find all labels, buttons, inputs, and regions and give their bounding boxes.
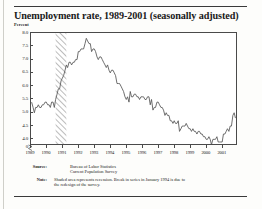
chart-note: Note: Shaded area represents recession. … xyxy=(14,177,246,188)
source-line-2: Current Population Survey xyxy=(70,169,246,174)
recession-band xyxy=(56,33,67,145)
plot-area xyxy=(30,32,237,145)
y-tick-label: 0 xyxy=(14,144,28,149)
y-tick-label: 7.5 xyxy=(14,43,28,48)
source-line-1: Bureau of Labor Statistics xyxy=(70,164,116,169)
x-tick-mark xyxy=(78,145,79,148)
top-divider-rule xyxy=(14,6,247,7)
y-tick-mark xyxy=(30,32,33,33)
y-tick-label: 6.5 xyxy=(14,69,28,74)
y-tick-mark xyxy=(30,138,33,139)
note-text: Shaded area represents recession. Break … xyxy=(50,177,246,188)
y-tick-label: 7.0 xyxy=(14,56,28,61)
y-tick-label: 5.0 xyxy=(14,109,28,114)
y-tick-mark xyxy=(30,112,33,113)
y-tick-mark xyxy=(30,45,33,46)
y-tick-mark xyxy=(30,59,33,60)
bottom-divider-rule xyxy=(14,196,247,197)
source-label: Source: xyxy=(14,164,50,169)
x-tick-mark xyxy=(46,145,47,148)
x-tick-mark xyxy=(222,145,223,148)
y-tick-mark xyxy=(30,72,33,73)
x-tick-mark xyxy=(174,145,175,148)
x-axis-tick-labels: 1989199019911992199319941995199619971998… xyxy=(30,150,237,159)
x-tick-mark xyxy=(126,145,127,148)
y-tick-mark xyxy=(30,125,33,126)
source-note: Source: Bureau of Labor Statistics Curre… xyxy=(14,164,246,175)
y-tick-label: 4.0 xyxy=(14,136,28,141)
recession-shading xyxy=(56,33,67,145)
unemployment-line-chart xyxy=(31,33,237,145)
y-tick-label: 4.5 xyxy=(14,123,28,128)
footnotes: Source: Bureau of Labor Statistics Curre… xyxy=(14,164,246,190)
x-tick-mark xyxy=(142,145,143,148)
x-tick-label: 2001 xyxy=(211,150,233,156)
x-tick-mark xyxy=(110,145,111,148)
page-title: Unemployment rate, 1989-2001 (seasonally… xyxy=(14,10,252,22)
y-tick-label: 8.0 xyxy=(14,30,28,35)
x-tick-mark xyxy=(206,145,207,148)
note-line-1: Shaded area represents recession. Break … xyxy=(54,177,185,182)
y-tick-label: 5.5 xyxy=(14,96,28,101)
y-tick-mark xyxy=(30,98,33,99)
source-text: Bureau of Labor Statistics Current Popul… xyxy=(50,164,246,175)
note-line-2: the redesign of the survey. xyxy=(54,182,246,187)
y-tick-mark xyxy=(30,85,33,86)
x-tick-mark xyxy=(158,145,159,148)
y-tick-label: 6.0 xyxy=(14,83,28,88)
note-label: Note: xyxy=(14,177,50,182)
x-tick-mark xyxy=(190,145,191,148)
page-left-edge xyxy=(3,0,4,209)
unemployment-rate-figure: Unemployment rate, 1989-2001 (seasonally… xyxy=(0,0,262,209)
x-tick-mark xyxy=(62,145,63,148)
x-tick-mark xyxy=(30,145,31,148)
x-tick-mark xyxy=(94,145,95,148)
